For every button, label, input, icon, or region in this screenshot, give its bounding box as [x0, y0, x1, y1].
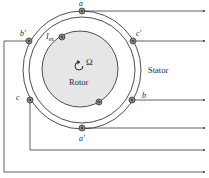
conductor-b	[129, 97, 135, 103]
rotor-conductor-top	[59, 34, 65, 40]
excitation-current-label: Iex	[45, 32, 54, 42]
omega-label: Ω	[86, 57, 93, 67]
label-a: a	[79, 0, 83, 8]
excitation-current-subscript: ex	[49, 36, 54, 42]
terminal-dots	[203, 10, 205, 173]
conductor-a-prime	[79, 125, 85, 131]
label-c: c	[16, 93, 20, 102]
conductor-b-prime	[26, 38, 32, 44]
rotor-label: Rotor	[69, 77, 89, 87]
label-b: b	[142, 91, 146, 100]
terminal-dot	[203, 127, 205, 129]
conductor-c	[27, 97, 33, 103]
label-a-prime: a′	[79, 134, 85, 143]
wire-c	[30, 100, 204, 150]
label-c-prime: c′	[136, 29, 142, 38]
terminal-dot	[203, 40, 205, 42]
stator-label: Stator	[148, 65, 168, 75]
terminal-dot	[203, 10, 205, 12]
terminal-dot	[203, 171, 205, 173]
conductor-a	[79, 8, 85, 14]
rotor-conductor-bottom	[96, 99, 102, 105]
terminal-dot	[203, 149, 205, 151]
conductor-c-prime	[130, 38, 136, 44]
label-b-prime: b′	[20, 29, 26, 38]
terminal-dot	[203, 99, 205, 101]
machine-diagram: Ω Rotor Stator a a′ b b′ c c′ Iex	[0, 0, 209, 178]
rotor	[42, 31, 118, 107]
